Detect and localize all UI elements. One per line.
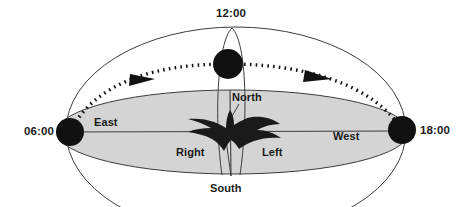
direction-label-west: West [333,131,359,142]
time-label-12: 12:00 [216,8,246,20]
direction-label-south: South [210,183,242,194]
diagram-canvas [0,0,467,207]
side-label-left: Left [262,147,283,158]
time-label-18: 18:00 [420,125,450,137]
direction-label-north: North [232,92,262,103]
sun-marker-12 [213,49,243,79]
direction-label-east: East [94,117,118,128]
sun-marker-18 [388,116,416,144]
sun-marker-06 [56,118,84,146]
sun-path-diagram: 06:00 12:00 18:00 East West North South … [0,0,467,207]
side-label-right: Right [176,147,205,158]
time-label-06: 06:00 [24,126,54,138]
